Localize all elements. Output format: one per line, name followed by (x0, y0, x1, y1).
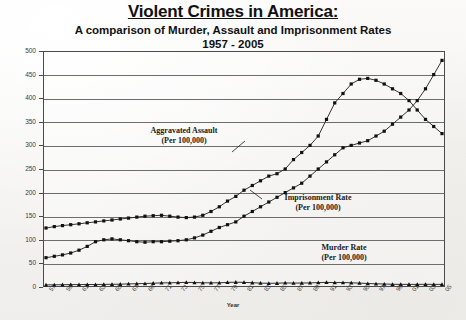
annotation-murder-line2: (Per 100,000) (296, 253, 392, 263)
series-data-point (209, 210, 212, 213)
series-data-point (94, 220, 97, 223)
series-data-point (44, 226, 47, 229)
x-axis-tick-label: 65 (114, 284, 123, 293)
series-data-point (176, 239, 179, 242)
x-axis-tick-label: 57 (48, 284, 57, 293)
series-data-point (317, 167, 320, 170)
annotation-imprisonment-rate: Imprisonment Rate (Per 100,000) (266, 193, 370, 213)
annotation-murder-line1: Murder Rate (296, 243, 392, 253)
series-data-point (424, 87, 427, 90)
series-data-point (77, 249, 80, 252)
series-data-point (366, 77, 369, 80)
series-data-point (432, 73, 435, 76)
series-data-point (350, 82, 353, 85)
series-data-point (160, 214, 163, 217)
series-data-point (407, 99, 410, 102)
series-data-point (358, 141, 361, 144)
series-data-point (102, 219, 105, 222)
series-data-point (391, 87, 394, 90)
annotation-murder-rate: Murder Rate (Per 100,000) (296, 243, 392, 263)
series-data-point (374, 79, 377, 82)
series-data-point (218, 205, 221, 208)
series-data-point (333, 101, 336, 104)
series-data-point (416, 108, 419, 111)
x-axis-tick-label: 93 (345, 284, 354, 293)
series-data-point (193, 216, 196, 219)
series-data-point (242, 189, 245, 192)
series-data-point (432, 125, 435, 128)
series-data-point (193, 236, 196, 239)
series-data-point (94, 240, 97, 243)
series-data-point (152, 214, 155, 217)
series-data-point (399, 92, 402, 95)
annotation-aggravated-assault: Aggravated Assault (Per 100,000) (128, 126, 240, 146)
annotation-leader-line (250, 190, 262, 199)
series-data-point (284, 167, 287, 170)
series-data-point (226, 200, 229, 203)
series-data-point (168, 215, 171, 218)
chart-subtitle-line2: 1957 - 2005 (0, 37, 466, 51)
chart-subtitle-line1: A comparison of Murder, Assault and Impr… (0, 23, 466, 37)
x-axis-title: Year (0, 302, 466, 308)
x-axis-tick-label: 73 (180, 284, 189, 293)
series-data-point (61, 224, 64, 227)
series-line (46, 78, 442, 228)
y-axis-tick-label: 450 (0, 71, 36, 78)
series-data-point (440, 132, 443, 135)
x-axis-tick-label: 97 (378, 284, 387, 293)
x-axis-tick-label: 61 (81, 284, 90, 293)
series-data-point (259, 205, 262, 208)
annotation-imprisonment-line2: (Per 100,000) (266, 203, 370, 213)
series-data-point (86, 221, 89, 224)
series-data-point (201, 234, 204, 237)
series-data-point (127, 217, 130, 220)
series-data-point (44, 256, 47, 259)
series-data-point (251, 184, 254, 187)
y-axis-tick-label: 100 (0, 236, 36, 243)
annotation-imprisonment-line1: Imprisonment Rate (266, 193, 370, 203)
series-data-point (292, 186, 295, 189)
series-data-point (61, 253, 64, 256)
series-data-point (234, 195, 237, 198)
series-data-point (119, 238, 122, 241)
page-title: Violent Crimes in America: (0, 2, 466, 22)
series-data-point (160, 240, 163, 243)
annotation-assault-line2: (Per 100,000) (128, 136, 240, 146)
series-data-point (127, 239, 130, 242)
series-data-point (242, 215, 245, 218)
y-axis-tick-label: 300 (0, 141, 36, 148)
y-axis-tick-label: 350 (0, 118, 36, 125)
series-data-point (176, 216, 179, 219)
series-data-point (333, 153, 336, 156)
series-data-point (135, 240, 138, 243)
series-data-point (209, 230, 212, 233)
series-data-point (374, 134, 377, 137)
series-data-point (77, 222, 80, 225)
series-data-point (168, 240, 171, 243)
series-data-point (317, 134, 320, 137)
y-axis-tick-label: 150 (0, 212, 36, 219)
series-data-point (251, 210, 254, 213)
series-data-point (440, 59, 443, 62)
series-data-point (53, 255, 56, 258)
series-data-point (143, 215, 146, 218)
series-line (46, 60, 442, 257)
series-data-point (308, 175, 311, 178)
y-axis-tick-label: 500 (0, 47, 36, 54)
y-axis-tick-label: 400 (0, 94, 36, 101)
series-data-point (416, 99, 419, 102)
series-data-point (53, 225, 56, 228)
series-data-point (300, 182, 303, 185)
series-data-point (267, 175, 270, 178)
series-data-point (383, 82, 386, 85)
x-axis-tick-label: 01 (411, 284, 420, 293)
series-data-point (69, 251, 72, 254)
series-data-point (152, 240, 155, 243)
y-axis-tick-mark (39, 287, 43, 288)
x-axis-tick-label: 77 (213, 284, 222, 293)
series-data-point (110, 237, 113, 240)
series-data-point (325, 118, 328, 121)
series-data-point (358, 78, 361, 81)
x-axis-tick-label: 81 (246, 284, 255, 293)
y-axis-tick-label: 250 (0, 165, 36, 172)
